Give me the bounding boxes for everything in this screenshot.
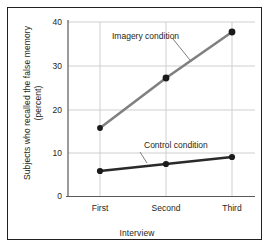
data-point-imagery-second	[163, 75, 170, 82]
data-point-imagery-third	[229, 29, 236, 36]
data-point-control-third	[229, 154, 235, 160]
leader-line-imagery	[173, 39, 190, 60]
data-point-control-first	[97, 168, 103, 174]
y-tick-20: 20	[40, 105, 62, 115]
annotation-control-condition: Control condition	[144, 140, 208, 150]
y-axis-title-line1: Subjects who recalled the false memory	[22, 8, 33, 198]
y-tick-40: 40	[40, 17, 62, 27]
x-tick-second: Second	[138, 203, 194, 213]
horizontal-gridlines	[68, 22, 255, 153]
data-point-imagery-first	[97, 125, 103, 131]
x-tick-third: Third	[204, 203, 260, 213]
x-axis-title: Interview	[0, 228, 274, 238]
data-point-control-second	[163, 161, 169, 167]
y-tick-0: 0	[40, 191, 62, 201]
y-tick-30: 30	[40, 61, 62, 71]
y-axis-title: Subjects who recalled the false memory (…	[22, 8, 43, 198]
annotation-imagery-condition: Imagery condition	[112, 31, 179, 41]
x-tick-first: First	[72, 203, 128, 213]
y-axis-title-line2: (percent)	[33, 8, 44, 198]
leader-line-control	[140, 152, 147, 163]
y-tick-10: 10	[40, 148, 62, 158]
